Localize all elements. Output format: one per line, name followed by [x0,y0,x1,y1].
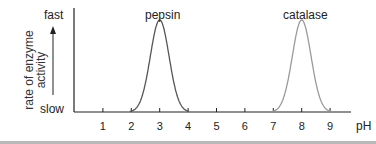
pepsin-curve [130,20,189,111]
x-tick-label: 4 [185,120,191,132]
x-tick-label: 8 [299,120,305,132]
y-top-label: fast [44,8,63,22]
y-axis-label-line2: activity [34,52,48,89]
x-tick-label: 5 [213,120,219,132]
x-tick-label: 7 [270,120,276,132]
x-tick-label: 1 [100,120,106,132]
y-bottom-label: slow [40,102,64,116]
catalase-label: catalase [283,8,328,22]
x-tick-label: 3 [157,120,163,132]
catalase-curve [272,20,332,111]
x-axis-label: pH [356,119,371,133]
arrow-up-icon [50,26,56,34]
x-tick-label: 2 [128,120,134,132]
x-tick-label: 6 [242,120,248,132]
pepsin-label: pepsin [145,8,180,22]
bottom-divider [0,141,376,144]
x-tick-label: 9 [327,120,333,132]
